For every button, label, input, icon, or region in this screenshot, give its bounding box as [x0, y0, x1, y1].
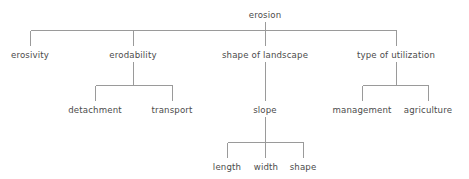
node-shape: shape [290, 162, 317, 172]
node-width: width [254, 162, 278, 172]
node-transport: transport [151, 105, 192, 115]
node-erodability: erodability [109, 50, 156, 60]
node-erosivity: erosivity [11, 50, 49, 60]
node-detachment: detachment [68, 105, 122, 115]
node-slope: slope [253, 105, 277, 115]
node-type-of-utilization: type of utilization [357, 50, 435, 60]
tree-connector-lines [0, 0, 469, 179]
erosion-hierarchy-diagram: erosion erosivity erodability shape of l… [0, 0, 469, 179]
node-management: management [332, 105, 391, 115]
node-shape-of-landscape: shape of landscape [222, 50, 308, 60]
node-erosion: erosion [249, 10, 282, 20]
node-agriculture: agriculture [404, 105, 452, 115]
node-length: length [213, 162, 241, 172]
